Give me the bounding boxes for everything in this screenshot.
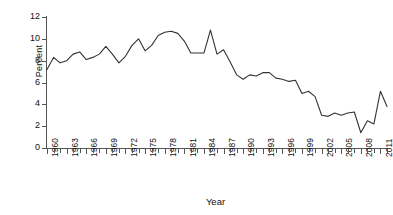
y-tick-label: 0 [20,143,40,152]
x-tick-minor [60,149,61,153]
x-tick-major [67,149,68,154]
x-tick-minor [99,149,100,153]
x-tick-minor [54,149,55,153]
x-tick-major [125,149,126,154]
x-tick-minor [178,149,179,153]
x-tick-major [361,149,362,154]
x-tick-major [224,149,225,154]
x-tick-major [302,149,303,154]
y-tick [42,126,46,127]
y-tick-label: 4 [20,99,40,108]
x-tick-major [86,149,87,154]
x-tick-major [165,149,166,154]
x-tick-minor [256,149,257,153]
x-tick-minor [289,149,290,153]
chart-figure: Percent 121086420 1960196319661969197219… [0,0,393,215]
x-tick-minor [197,149,198,153]
x-tick-minor [80,149,81,153]
x-axis-title: Year [206,196,225,207]
x-tick-minor [269,149,270,153]
x-tick-major [263,149,264,154]
x-tick-minor [328,149,329,153]
x-tick-minor [348,149,349,153]
y-tick [42,148,46,149]
x-tick-minor [230,149,231,153]
y-tick [42,17,46,18]
x-tick-minor [309,149,310,153]
x-tick-minor [335,149,336,153]
x-tick-minor [93,149,94,153]
y-tick-label: 2 [20,121,40,130]
x-tick-minor [387,149,388,153]
x-tick-minor [250,149,251,153]
x-tick-minor [217,149,218,153]
x-tick-major [106,149,107,154]
line-path [47,30,387,133]
x-tick-minor [191,149,192,153]
x-tick-minor [276,149,277,153]
y-tick [42,39,46,40]
y-tick-label: 10 [20,34,40,43]
x-tick-minor [152,149,153,153]
x-tick-minor [158,149,159,153]
x-tick-minor [210,149,211,153]
x-tick-minor [139,149,140,153]
data-series-line [47,17,387,148]
x-tick-minor [367,149,368,153]
x-tick-major [204,149,205,154]
x-axis-title-wrap: Year [0,196,393,207]
x-tick-major [341,149,342,154]
x-tick-minor [112,149,113,153]
x-tick-minor [119,149,120,153]
x-tick-major [380,149,381,154]
y-tick-label: 12 [20,12,40,21]
y-tick [42,61,46,62]
x-tick-minor [374,149,375,153]
x-tick-minor [132,149,133,153]
y-tick-label: 6 [20,78,40,87]
x-tick-minor [237,149,238,153]
y-tick-label: 8 [20,56,40,65]
x-tick-major [184,149,185,154]
x-tick-minor [73,149,74,153]
x-tick-major [243,149,244,154]
x-tick-minor [295,149,296,153]
x-tick-major [145,149,146,154]
x-tick-major [322,149,323,154]
x-tick-minor [171,149,172,153]
x-tick-major [282,149,283,154]
x-tick-major [47,149,48,154]
y-tick [42,83,46,84]
y-tick [42,104,46,105]
x-tick-minor [354,149,355,153]
x-tick-minor [315,149,316,153]
